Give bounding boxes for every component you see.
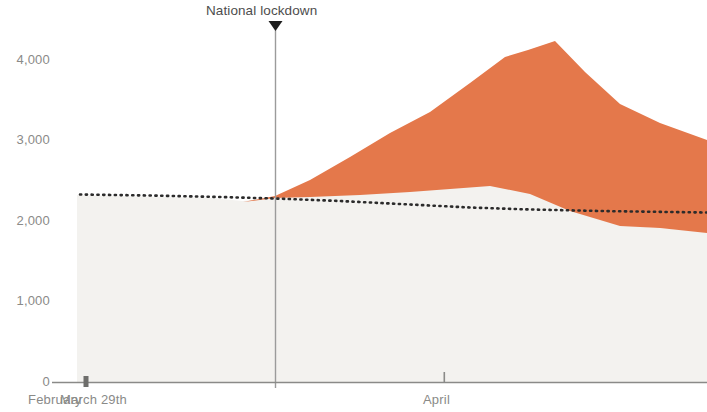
excess-deaths-area-chart: 4,000 3,000 2,000 1,000 0 February March… (0, 0, 707, 412)
lockdown-triangle-marker (269, 21, 283, 31)
y-tick-label-4000: 4,000 (0, 52, 50, 67)
x-tick-label-march-29th: March 29th (60, 392, 127, 407)
chart-plot-area (0, 0, 707, 412)
y-tick-label-2000: 2,000 (0, 213, 50, 228)
y-tick-label-3000: 3,000 (0, 132, 50, 147)
lockdown-annotation-label: National lockdown (206, 3, 317, 18)
y-tick-label-0: 0 (0, 374, 50, 389)
x-tick-april (444, 372, 446, 383)
x-tick-february (84, 376, 89, 387)
x-tick-label-april: April (423, 392, 450, 407)
y-tick-label-1000: 1,000 (0, 293, 50, 308)
